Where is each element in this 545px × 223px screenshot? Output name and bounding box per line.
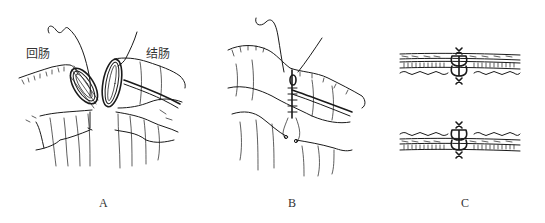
anastomosis-figure: 回肠 结肠 A B C bbox=[0, 0, 545, 223]
ileum-cut-end bbox=[65, 64, 103, 109]
suture-knot-bottom bbox=[451, 122, 466, 158]
panel-a-drawing bbox=[0, 0, 545, 223]
mesentery-right bbox=[115, 112, 178, 142]
cross-section-bottom bbox=[400, 122, 520, 158]
mucosa-wave-top bbox=[400, 72, 520, 75]
ileum-label: 回肠 bbox=[26, 44, 50, 61]
panel-a-label: A bbox=[99, 196, 108, 211]
cross-section-top bbox=[400, 48, 520, 84]
suture-thread-right bbox=[118, 32, 137, 66]
panel-b-label: B bbox=[288, 196, 296, 211]
panel-c-label: C bbox=[461, 196, 469, 211]
suture-thread-b-right bbox=[298, 38, 322, 72]
colon-label: 结肠 bbox=[146, 44, 170, 61]
colon-outline bbox=[114, 58, 185, 88]
panel-c bbox=[400, 48, 520, 158]
anastomosed-bowel-outline bbox=[228, 46, 365, 109]
mucosa-wave-bottom bbox=[400, 133, 520, 136]
taenia-coli-b bbox=[292, 90, 352, 112]
panel-b bbox=[228, 18, 365, 176]
suture-thread-left bbox=[48, 26, 90, 96]
mesentery-left bbox=[36, 110, 92, 150]
ileum-outline bbox=[19, 65, 78, 78]
taenia-coli bbox=[124, 80, 180, 104]
suture-thread-b-left bbox=[256, 18, 284, 72]
